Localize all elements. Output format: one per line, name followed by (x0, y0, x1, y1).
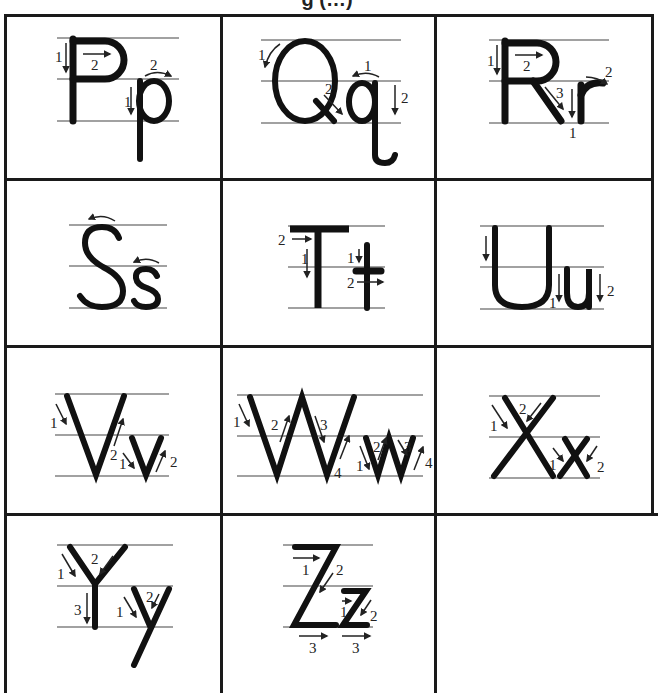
stroke-number: 3 (320, 417, 328, 433)
stroke-number: 3 (352, 640, 360, 656)
stroke-number: 2 (146, 589, 154, 605)
stroke-number: 1 (487, 53, 495, 69)
stroke-number: 3 (309, 640, 317, 656)
letter-cell-pp: 1 2 1 2 (4, 14, 223, 181)
letter-x (560, 439, 587, 476)
letter-ss-drawing (7, 181, 223, 348)
stroke-number: 2 (271, 417, 279, 433)
letter-cell-ww: 1 2 3 4 1 2 3 4 (220, 345, 437, 516)
letter-cell-zz: 1 2 1 2 3 3 (220, 513, 437, 693)
stroke-number: 2 (91, 551, 99, 567)
stroke-number: 2 (373, 439, 381, 455)
letter-xx-drawing: 1 2 1 2 (437, 348, 654, 516)
stroke-number: 1 (340, 604, 348, 620)
stroke-number: 2 (170, 454, 178, 470)
letter-qq-drawing: 1 2 1 2 (223, 17, 437, 181)
empty-cell (434, 513, 658, 693)
stroke-number: 4 (334, 465, 342, 481)
letter-cell-tt: 2 1 1 2 (220, 178, 437, 348)
stroke-number: 2 (278, 232, 286, 248)
stroke-number: 1 (50, 415, 58, 431)
stroke-number: 2 (347, 275, 355, 291)
stroke-number: 1 (119, 456, 127, 472)
stroke-number: 2 (401, 90, 409, 106)
letter-u (567, 269, 589, 307)
letter-yy-drawing: 1 2 3 1 2 (7, 516, 223, 693)
stroke-number: 2 (150, 57, 158, 73)
stroke-number: 1 (356, 458, 364, 474)
stroke-number: 1 (116, 604, 124, 620)
letter-zz-drawing: 1 2 1 2 3 3 (223, 516, 437, 693)
stroke-number: 1 (490, 418, 498, 434)
letter-T (290, 229, 349, 308)
stroke-number: 1 (549, 295, 557, 311)
stroke-number: 1 (124, 94, 132, 110)
letter-r (581, 83, 603, 121)
stroke-number: 1 (347, 250, 355, 266)
letter-ww-drawing: 1 2 3 4 1 2 3 4 (223, 348, 437, 516)
stroke-number: 2 (336, 562, 344, 578)
stroke-number: 1 (549, 457, 557, 473)
letter-cell-ss (4, 178, 223, 348)
stroke-number: 1 (57, 566, 65, 582)
stroke-number: 3 (404, 439, 412, 455)
stroke-number: 2 (607, 283, 615, 299)
stroke-number: 2 (370, 608, 378, 624)
letter-cell-rr: 1 2 3 1 2 (434, 14, 654, 181)
page-title-fragment: g (…) (0, 0, 654, 11)
stroke-number: 1 (55, 49, 63, 65)
letter-p (139, 81, 169, 159)
stroke-number: 1 (301, 251, 309, 267)
stroke-number: 2 (91, 57, 99, 73)
stroke-number: 3 (556, 85, 564, 101)
letter-P (73, 39, 124, 121)
letter-cell-uu: 1 2 (434, 178, 654, 348)
letter-S (80, 227, 123, 307)
stroke-number: 4 (425, 455, 433, 471)
stroke-number: 2 (523, 58, 531, 74)
letter-rr-drawing: 1 2 3 1 2 (437, 17, 654, 181)
letter-uu-drawing: 1 2 (437, 181, 654, 348)
letter-cell-qq: 1 2 1 2 (220, 14, 437, 181)
letter-cell-yy: 1 2 3 1 2 (4, 513, 223, 693)
letter-s (134, 269, 158, 307)
stroke-number: 1 (569, 125, 577, 141)
stroke-number: 1 (302, 562, 310, 578)
letter-cell-vv: 1 2 1 2 (4, 345, 223, 516)
letter-tt-drawing: 2 1 1 2 (223, 181, 437, 348)
letter-vv-drawing: 1 2 1 2 (7, 348, 223, 516)
stroke-number: 2 (605, 64, 613, 80)
stroke-number: 3 (74, 602, 82, 618)
stroke-number: 1 (233, 414, 241, 430)
stroke-number: 2 (597, 459, 605, 475)
stroke-number: 2 (325, 81, 333, 97)
stroke-number: 2 (110, 447, 118, 463)
stroke-number: 2 (519, 401, 527, 417)
stroke-number: 1 (364, 58, 372, 74)
letter-cell-xx: 1 2 1 2 (434, 345, 654, 516)
letter-pp-drawing: 1 2 1 2 (7, 17, 223, 181)
stroke-number: 1 (258, 47, 266, 63)
